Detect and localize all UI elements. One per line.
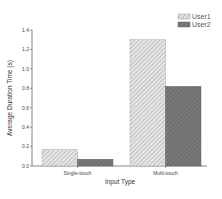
bar-user2-single-touch [78,159,114,166]
y-axis-title: Average Duration Time (s) [6,60,14,136]
bars [42,40,201,168]
y-ticks: 0.00.20.40.60.81.01.21.4 [22,27,32,169]
y-tick-label: 1.4 [22,27,29,33]
x-tick-labels: Single-touchMulti-touch [64,170,178,176]
legend: User1 User2 [178,13,211,28]
bar-user2-multi-touch [166,86,202,166]
y-tick-label: 0.0 [22,163,29,169]
y-tick-label: 0.4 [22,124,29,130]
bar-user1-single-touch [42,149,78,166]
legend-label-user1: User1 [192,13,211,20]
legend-swatch-user1 [178,14,190,19]
x-tick-label: Single-touch [64,170,92,176]
chart: 0.00.20.40.60.81.01.21.4 Single-touchMul… [0,0,222,199]
legend-label-user2: User2 [192,21,211,28]
x-axis-title: Input Type [105,178,136,186]
legend-swatch-user2 [178,22,190,27]
y-tick-label: 0.6 [22,105,29,111]
y-tick-label: 1.0 [22,66,29,72]
y-tick-label: 1.2 [22,46,29,52]
x-tick-label: Multi-touch [153,170,178,176]
y-tick-label: 0.8 [22,85,29,91]
y-tick-label: 0.2 [22,143,29,149]
bar-user1-multi-touch [130,40,166,166]
